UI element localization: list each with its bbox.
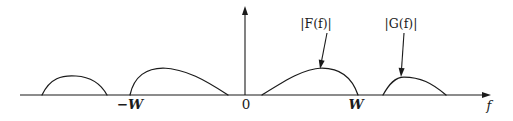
- spectrum-figure: −W 0 W f |F(f)| |G(f)|: [0, 0, 513, 121]
- f-callout-arrow-line: [321, 33, 327, 64]
- spectrum-lobe-f: [262, 68, 358, 95]
- g-spectrum-label: |G(f)|: [385, 16, 418, 31]
- x-tick-label-minus-w: −W: [117, 96, 145, 112]
- spectrum-lobe-mirrored-g: [42, 76, 107, 95]
- x-tick-label-w: W: [348, 96, 365, 112]
- spectrum-plot: −W 0 W f |F(f)| |G(f)|: [0, 0, 513, 121]
- spectrum-lobe-g: [383, 77, 446, 95]
- x-tick-label-zero: 0: [242, 96, 251, 112]
- spectrum-lobe-mirrored-f: [130, 68, 228, 95]
- x-axis-name-label: f: [486, 98, 494, 113]
- f-spectrum-label: |F(f)|: [300, 16, 331, 31]
- g-callout-arrow-line: [401, 33, 404, 72]
- y-axis-arrowhead: [242, 6, 248, 15]
- g-callout-arrowhead: [399, 68, 405, 77]
